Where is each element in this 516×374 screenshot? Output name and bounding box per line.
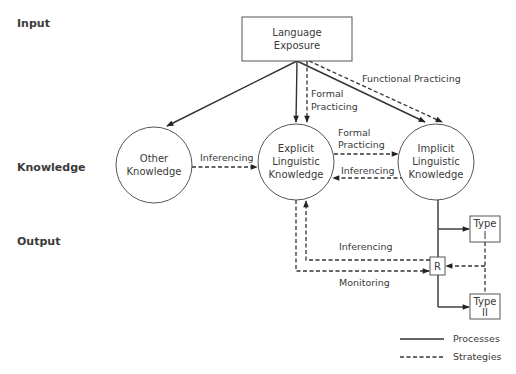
svg-text:Linguistic: Linguistic bbox=[412, 156, 460, 167]
arrow-exposure-to-other bbox=[167, 61, 297, 126]
label-inferencing-other: Inferencing bbox=[200, 152, 254, 163]
label-inferencing-output: Inferencing bbox=[339, 241, 393, 252]
svg-text:Language: Language bbox=[272, 27, 321, 38]
legend: Processes Strategies bbox=[400, 333, 502, 362]
label-formal-practicing-mid-1: Formal bbox=[338, 127, 370, 138]
row-label-input: Input bbox=[17, 17, 50, 30]
svg-text:R: R bbox=[434, 261, 441, 272]
svg-text:I: I bbox=[484, 230, 487, 241]
label-monitoring: Monitoring bbox=[339, 277, 390, 288]
row-label-output: Output bbox=[17, 235, 60, 248]
language-exposure-box: Language Exposure bbox=[242, 17, 352, 61]
svg-text:Exposure: Exposure bbox=[274, 40, 320, 51]
legend-processes-label: Processes bbox=[453, 333, 500, 344]
r-box: R bbox=[430, 257, 445, 275]
label-inferencing-implicit: Inferencing bbox=[341, 165, 395, 176]
label-functional-practicing: Functional Practicing bbox=[362, 73, 461, 84]
label-formal-practicing-mid-2: Practicing bbox=[338, 139, 385, 150]
explicit-knowledge-node: Explicit Linguistic Knowledge bbox=[258, 124, 334, 200]
row-label-knowledge: Knowledge bbox=[17, 161, 86, 174]
other-knowledge-node: Other Knowledge bbox=[116, 127, 192, 203]
svg-text:Type: Type bbox=[473, 218, 497, 229]
svg-text:Knowledge: Knowledge bbox=[127, 166, 182, 177]
svg-text:Knowledge: Knowledge bbox=[409, 169, 464, 180]
svg-text:Linguistic: Linguistic bbox=[272, 156, 320, 167]
label-formal-practicing-top-2: Practicing bbox=[311, 101, 358, 112]
svg-text:Explicit: Explicit bbox=[278, 143, 314, 154]
arrow-exposure-to-explicit bbox=[296, 61, 297, 122]
process-arrows-input bbox=[167, 61, 425, 126]
svg-text:Implicit: Implicit bbox=[418, 143, 455, 154]
legend-strategies-label: Strategies bbox=[453, 351, 502, 362]
svg-text:II: II bbox=[482, 307, 488, 318]
diagram-canvas: Input Knowledge Output Language Exposure… bbox=[0, 0, 516, 374]
type1-box: Type I bbox=[470, 216, 500, 242]
svg-text:Type: Type bbox=[473, 296, 497, 307]
implicit-knowledge-node: Implicit Linguistic Knowledge bbox=[398, 124, 474, 200]
svg-text:Knowledge: Knowledge bbox=[269, 169, 324, 180]
output-processes bbox=[438, 200, 469, 307]
label-formal-practicing-top-1: Formal bbox=[311, 88, 343, 99]
svg-text:Other: Other bbox=[140, 153, 169, 164]
type2-box: Type II bbox=[470, 294, 500, 319]
